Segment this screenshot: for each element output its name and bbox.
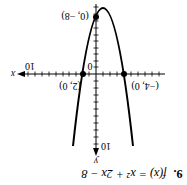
problem-number: 9. bbox=[174, 167, 183, 181]
label-vertex-point: (0, −8) bbox=[61, 10, 88, 22]
label-origin: 0 bbox=[88, 61, 93, 72]
label-root-right: (−4, 0) bbox=[131, 80, 158, 92]
label-y-axis: y bbox=[93, 156, 99, 167]
label-x-axis: x bbox=[10, 69, 16, 80]
graph: (0, −8) (2, 0) (−4, 0) 0 10 x 10 y 9. f(… bbox=[0, 0, 187, 185]
point-2-0 bbox=[80, 71, 86, 77]
label-root-left: (2, 0) bbox=[59, 80, 81, 92]
label-y-tick: 10 bbox=[101, 141, 111, 152]
label-x-tick: 10 bbox=[25, 61, 35, 72]
problem-equation: f(x) = x² + 2x − 8 bbox=[81, 167, 166, 181]
x-axis-arrow-icon bbox=[17, 71, 25, 77]
y-axis-arrow-icon bbox=[93, 148, 99, 156]
point-0-neg8 bbox=[93, 14, 99, 20]
point-neg4-0 bbox=[121, 71, 127, 77]
y-axis bbox=[93, 4, 99, 156]
